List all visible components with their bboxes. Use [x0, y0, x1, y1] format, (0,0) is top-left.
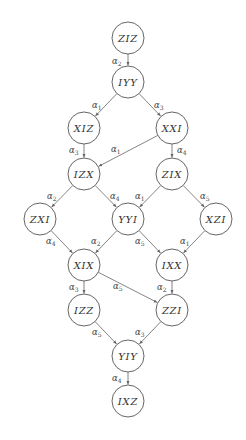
edge-label: α2	[91, 236, 101, 247]
node-label: XXI	[161, 123, 183, 134]
edge-label: α5	[113, 281, 123, 292]
node-yiy: YIY	[112, 340, 144, 372]
node-label: IYY	[117, 77, 138, 88]
edge-label: α2	[157, 282, 167, 293]
node-zzi: ZZI	[156, 294, 188, 326]
node-label: IZX	[73, 169, 94, 180]
node-xzi: XZI	[200, 203, 232, 235]
edge-label: α2	[47, 191, 57, 202]
node-label: IZZ	[73, 305, 94, 316]
edge-label: α3	[69, 145, 79, 156]
node-label: IXZ	[117, 396, 139, 407]
edge-label: α5	[92, 327, 102, 338]
edge-xxi-izx	[99, 135, 158, 166]
node-label: ZIZ	[117, 33, 138, 44]
node-xiz: XIZ	[68, 112, 100, 144]
node-izz: IZZ	[68, 294, 100, 326]
edge-label: α4	[46, 236, 56, 247]
node-xix: XIX	[68, 249, 100, 281]
node-ixx: IXX	[156, 249, 188, 281]
node-xxi: XXI	[156, 112, 188, 144]
node-label: ZZI	[161, 305, 182, 316]
edge-label: α5	[200, 191, 210, 202]
edge-xix-zzi	[98, 272, 157, 302]
node-yyi: YYI	[112, 203, 144, 235]
edge-label: α1	[135, 191, 145, 202]
edge-label: α1	[92, 100, 102, 111]
edge-label: α5	[135, 236, 145, 247]
edge-label: α4	[177, 145, 187, 156]
node-label: ZIX	[161, 169, 182, 180]
edge-label: α1	[180, 236, 190, 247]
edge-label: α3	[69, 282, 79, 293]
edge-label: α1	[111, 144, 121, 155]
node-label: XIZ	[73, 123, 95, 134]
node-label: XIX	[73, 260, 95, 271]
node-label: XZI	[205, 214, 227, 225]
edge-label: α2	[112, 56, 122, 67]
node-label: ZXI	[29, 214, 51, 225]
node-zxi: ZXI	[24, 203, 56, 235]
edge-label: α3	[154, 100, 164, 111]
node-zix: ZIX	[156, 158, 188, 190]
node-ziz: ZIZ	[112, 22, 144, 54]
commutation-graph: α2α1α3α3α1α4α2α4α1α5α4α2α5α1α3α5α2α5α3α4…	[0, 0, 246, 440]
edge-label: α4	[110, 191, 120, 202]
edge-label: α3	[135, 327, 145, 338]
edge-label: α4	[112, 373, 122, 384]
node-label: YYI	[118, 214, 138, 225]
node-iyy: IYY	[112, 66, 144, 98]
node-ixz: IXZ	[112, 385, 144, 417]
nodes-layer: ZIZIYYXIZXXIIZXZIXZXIYYIXZIXIXIXXIZZZZIY…	[24, 22, 232, 417]
node-izx: IZX	[68, 158, 100, 190]
node-label: YIY	[118, 351, 138, 362]
node-label: IXX	[161, 260, 183, 271]
